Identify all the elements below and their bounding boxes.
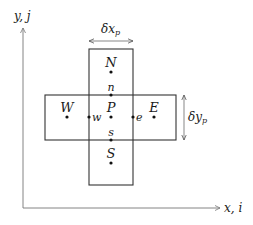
node-w-label: w [92,111,102,124]
y-axis-label: y, j [13,9,31,23]
node-w-dot [87,115,90,118]
node-n-label: n [107,81,114,94]
node-e-label: e [136,111,143,124]
nodes: N n W w P e E [60,55,159,165]
node-w: w [87,111,102,124]
node-n: n [107,81,114,97]
node-S-dot [109,161,112,164]
node-e-dot [131,115,134,118]
node-S: S [107,146,116,165]
node-E-label: E [148,100,159,115]
dimension-dx: δxp [89,22,133,41]
node-P: P [106,100,116,119]
node-N: N [104,55,117,74]
node-W: W [60,100,75,119]
node-N-dot [109,70,112,73]
node-s: s [108,126,114,142]
node-W-dot [65,115,68,118]
node-S-label: S [107,146,116,161]
node-W-label: W [60,100,75,115]
stencil-diagram: y, j x, i δxp δyp N n [0,0,253,225]
axes: y, j x, i [13,9,242,215]
dx-label: δxp [101,22,120,37]
x-axis-label: x, i [224,201,242,215]
node-s-label: s [108,126,114,139]
node-E: E [148,100,159,119]
node-P-label: P [106,100,116,115]
dy-label: δyp [188,110,207,125]
node-E-dot [152,115,155,118]
dimension-dy: δyp [184,95,207,140]
node-N-label: N [104,55,117,70]
node-P-dot [109,115,112,118]
